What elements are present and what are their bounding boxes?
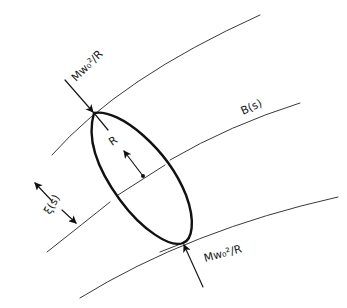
radius-label: R [106, 133, 120, 148]
vertex-tick [94, 113, 108, 130]
force-label-top: Mw₀²/R [69, 47, 106, 84]
upper-boundary-curve [52, 15, 260, 155]
separation-arrow-bottom [62, 210, 76, 223]
radius-arrow [124, 151, 143, 176]
beam-path-curve-inner [118, 165, 165, 195]
diagram-canvas: Mw₀²/R Mw₀²/R R B(s) ξ(s) [0, 0, 347, 308]
beam-path-label: B(s) [239, 97, 264, 118]
ring-ellipse [92, 113, 192, 244]
lower-boundary-curve [80, 197, 338, 298]
beam-path-curve-right [170, 103, 300, 160]
force-arrow-top [65, 80, 93, 112]
force-arrow-bottom [184, 245, 203, 287]
separation-label: ξ(s) [41, 192, 62, 216]
force-label-bottom: Mw₀²/R [202, 242, 243, 265]
